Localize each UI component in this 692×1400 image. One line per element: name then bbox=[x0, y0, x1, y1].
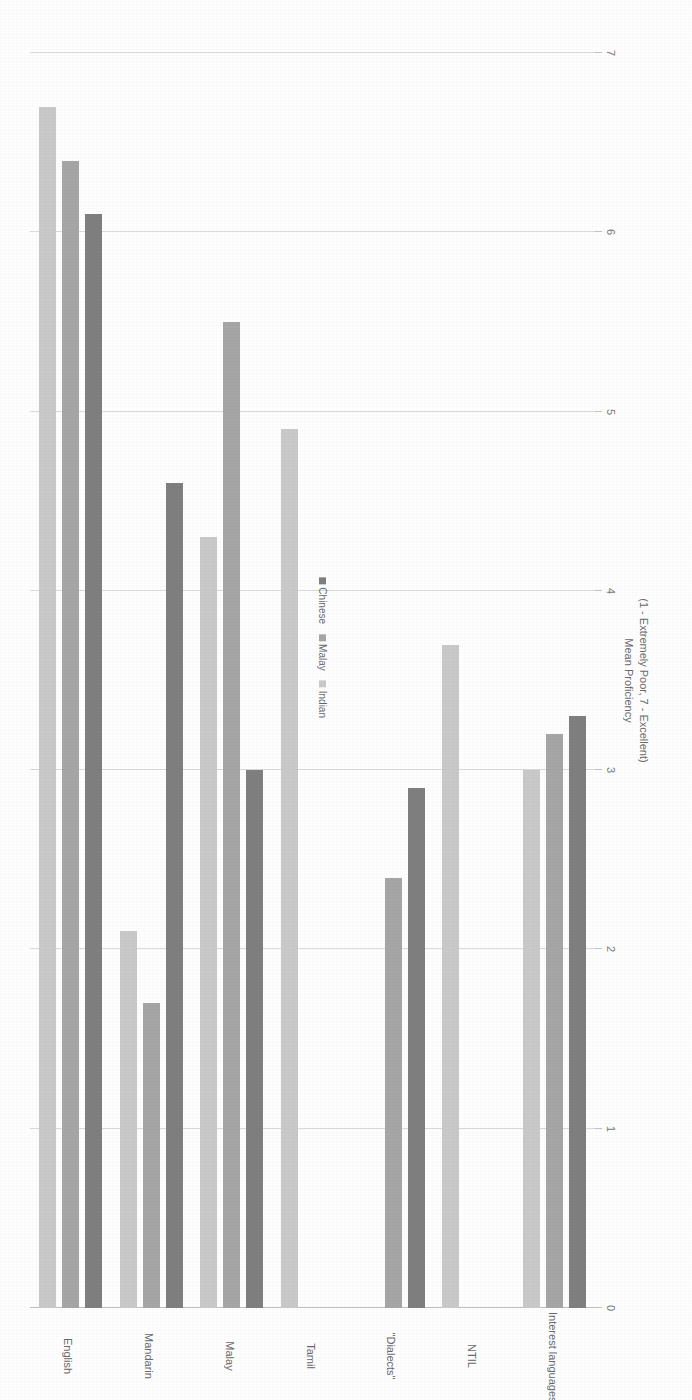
x-tick-label: 0 bbox=[605, 1298, 617, 1318]
x-tick-label: 1 bbox=[605, 1119, 617, 1139]
tick-mark bbox=[595, 1128, 602, 1129]
axis-title-line-2: (1 - Extremely Poor, 7 - Excellent) bbox=[638, 53, 650, 1308]
bar-chinese bbox=[246, 770, 263, 1308]
bar-malay bbox=[223, 322, 240, 1308]
bar-group bbox=[272, 53, 353, 1308]
chart-stage: 01234567 EnglishMandarinMalayTamil"Diale… bbox=[0, 0, 692, 1400]
x-tick-label: 7 bbox=[605, 43, 617, 63]
legend-item: Malay bbox=[317, 634, 328, 671]
scanned-page: 01234567 EnglishMandarinMalayTamil"Diale… bbox=[0, 0, 692, 1400]
bar-group bbox=[191, 53, 272, 1308]
category-label: English bbox=[62, 1312, 74, 1400]
bar-chinese bbox=[408, 788, 425, 1308]
tick-mark bbox=[595, 769, 602, 770]
bar-indian bbox=[39, 107, 56, 1308]
category-label: Mandarin bbox=[143, 1312, 155, 1400]
bar-indian bbox=[281, 430, 298, 1309]
bar-chart: 01234567 EnglishMandarinMalayTamil"Diale… bbox=[0, 0, 692, 1400]
legend-item: Indian bbox=[317, 681, 328, 718]
x-tick-label: 2 bbox=[605, 939, 617, 959]
plot-area bbox=[30, 53, 595, 1308]
x-tick-label: 3 bbox=[605, 760, 617, 780]
legend-swatch-icon bbox=[319, 681, 326, 688]
legend-item: Chinese bbox=[317, 578, 328, 625]
tick-mark bbox=[595, 411, 602, 412]
category-label: Tamil bbox=[305, 1312, 317, 1400]
bar-indian bbox=[120, 932, 137, 1309]
legend-swatch-icon bbox=[319, 578, 326, 585]
bar-group bbox=[514, 53, 595, 1308]
tick-mark bbox=[595, 948, 602, 949]
bar-indian bbox=[523, 770, 540, 1308]
legend-label: Indian bbox=[317, 691, 328, 718]
bar-malay bbox=[385, 878, 402, 1308]
tick-mark bbox=[595, 590, 602, 591]
category-label: "Dialects" bbox=[385, 1312, 397, 1400]
legend-label: Malay bbox=[317, 644, 328, 671]
bar-group bbox=[30, 53, 111, 1308]
legend-label: Chinese bbox=[317, 588, 328, 625]
axis-title-line-1: Mean Proficiency bbox=[623, 53, 635, 1308]
bar-indian bbox=[442, 645, 459, 1308]
bar-chinese bbox=[166, 483, 183, 1308]
bar-group bbox=[434, 53, 515, 1308]
category-label: NTIL bbox=[466, 1312, 478, 1400]
tick-mark bbox=[595, 1307, 602, 1308]
bar-indian bbox=[200, 537, 217, 1308]
bar-group bbox=[111, 53, 192, 1308]
bar-group bbox=[353, 53, 434, 1308]
bar-malay bbox=[143, 1003, 160, 1308]
bar-chinese bbox=[85, 214, 102, 1308]
category-label: Interest languages bbox=[547, 1312, 559, 1400]
x-tick-label: 6 bbox=[605, 222, 617, 242]
bar-malay bbox=[546, 734, 563, 1308]
bar-chinese bbox=[569, 716, 586, 1308]
x-tick-label: 4 bbox=[605, 581, 617, 601]
bar-malay bbox=[62, 161, 79, 1308]
x-tick-label: 5 bbox=[605, 402, 617, 422]
chart-legend: ChineseMalayIndian bbox=[317, 578, 328, 719]
tick-mark bbox=[595, 52, 602, 53]
legend-swatch-icon bbox=[319, 634, 326, 641]
tick-mark bbox=[595, 231, 602, 232]
category-label: Malay bbox=[224, 1312, 236, 1400]
